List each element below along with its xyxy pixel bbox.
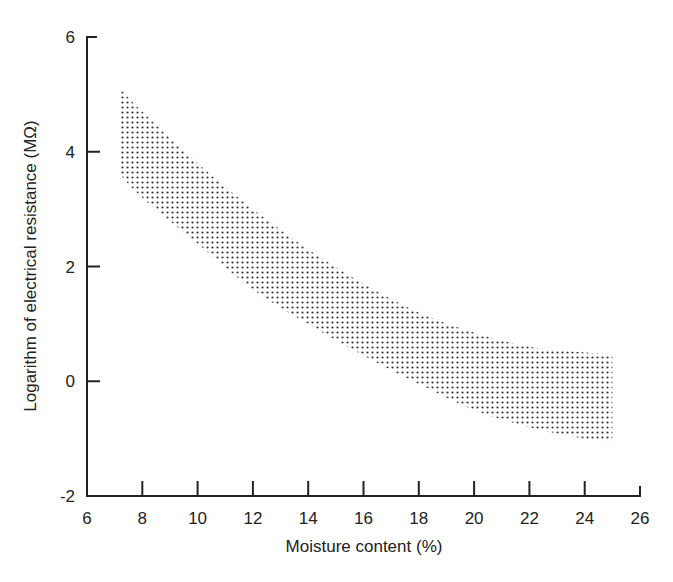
x-tick-label: 8 [138, 509, 147, 528]
x-tick-label: 12 [243, 509, 262, 528]
x-tick-label: 18 [409, 509, 428, 528]
y-axis-title: Logarithm of electrical resistance (MΩ) [21, 120, 40, 411]
y-tick-label: 6 [66, 28, 75, 47]
y-tick-label: 0 [66, 372, 75, 391]
x-tick-label: 22 [520, 509, 539, 528]
chart: 68101214161820222426 -20246 Moisture con… [0, 0, 673, 582]
x-tick-label: 14 [299, 509, 318, 528]
x-tick-label: 10 [188, 509, 207, 528]
y-tick-label: -2 [60, 487, 75, 506]
y-tick-label: 2 [66, 258, 75, 277]
resistance-band [120, 89, 612, 442]
x-tick-label: 16 [354, 509, 373, 528]
y-axis-ticks: -20246 [60, 28, 100, 506]
band-area [120, 89, 612, 442]
y-tick-label: 4 [66, 143, 75, 162]
x-tick-label: 24 [575, 509, 594, 528]
x-axis-title: Moisture content (%) [286, 537, 443, 556]
x-tick-label: 20 [465, 509, 484, 528]
x-axis-ticks: 68101214161820222426 [82, 481, 649, 528]
x-tick-label: 6 [82, 509, 91, 528]
x-tick-label: 26 [631, 509, 650, 528]
